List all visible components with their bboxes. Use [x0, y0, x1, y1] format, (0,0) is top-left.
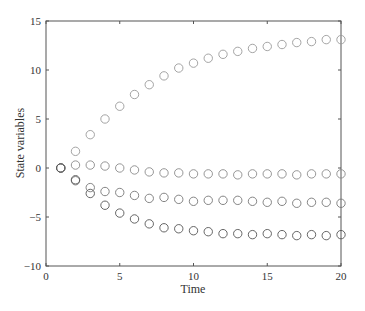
x-axis-label: Time [181, 282, 206, 296]
data-point [204, 196, 212, 204]
data-point [175, 169, 183, 177]
y-tick-label: −5 [29, 211, 41, 223]
data-point [71, 161, 79, 169]
data-point [263, 229, 271, 237]
series-state-4 [57, 164, 346, 240]
data-point [322, 231, 330, 239]
data-point [160, 72, 168, 80]
data-point [263, 42, 271, 50]
data-point [130, 215, 138, 223]
data-point [116, 164, 124, 172]
x-tick-label: 5 [117, 270, 123, 282]
data-point [248, 44, 256, 52]
x-tick-label: 20 [336, 270, 348, 282]
data-point [189, 227, 197, 235]
data-point [86, 161, 94, 169]
data-point [234, 229, 242, 237]
y-tick-label: 5 [36, 113, 42, 125]
data-point [293, 38, 301, 46]
data-point [189, 170, 197, 178]
data-point [263, 198, 271, 206]
data-point [160, 193, 168, 201]
data-point [307, 230, 315, 238]
data-point [293, 199, 301, 207]
data-point [204, 54, 212, 62]
y-tick-label: 0 [36, 162, 42, 174]
data-point [86, 130, 94, 138]
data-point [307, 170, 315, 178]
data-point [248, 230, 256, 238]
y-axis-label: State variables [13, 108, 27, 179]
data-point [101, 115, 109, 123]
data-point [116, 209, 124, 217]
data-markers [57, 35, 346, 239]
data-point [219, 170, 227, 178]
data-point [234, 196, 242, 204]
data-point [160, 169, 168, 177]
data-point [175, 225, 183, 233]
x-axis-ticks: 05101520 [43, 21, 347, 282]
data-point [293, 231, 301, 239]
data-point [130, 191, 138, 199]
data-point [116, 102, 124, 110]
data-point [204, 228, 212, 236]
plot-area-frame [46, 21, 341, 266]
data-point [175, 195, 183, 203]
data-point [278, 197, 286, 205]
data-point [130, 90, 138, 98]
data-point [307, 198, 315, 206]
data-point [234, 171, 242, 179]
data-point [204, 170, 212, 178]
data-point [278, 230, 286, 238]
data-point [248, 170, 256, 178]
data-point [160, 224, 168, 232]
data-point [101, 187, 109, 195]
data-point [248, 197, 256, 205]
data-point [293, 171, 301, 179]
data-point [219, 229, 227, 237]
data-point [234, 47, 242, 55]
series-state-3 [57, 164, 346, 208]
series-state-2 [57, 161, 346, 179]
data-point [175, 64, 183, 72]
data-point [189, 59, 197, 67]
scatter-chart: 05101520 −10−5051015 Time State variable… [0, 0, 365, 311]
data-point [278, 40, 286, 48]
data-point [322, 198, 330, 206]
y-tick-label: −10 [24, 260, 42, 272]
data-point [307, 37, 315, 45]
data-point [219, 196, 227, 204]
series-state-1 [57, 35, 346, 172]
data-point [189, 197, 197, 205]
x-tick-label: 0 [43, 270, 49, 282]
data-point [101, 201, 109, 209]
data-point [145, 81, 153, 89]
data-point [322, 35, 330, 43]
data-point [145, 194, 153, 202]
y-tick-label: 10 [30, 64, 42, 76]
data-point [130, 166, 138, 174]
x-tick-label: 15 [262, 270, 274, 282]
data-point [71, 147, 79, 155]
data-point [219, 50, 227, 58]
data-point [145, 168, 153, 176]
x-tick-label: 10 [188, 270, 200, 282]
data-point [278, 170, 286, 178]
data-point [86, 189, 94, 197]
data-point [101, 162, 109, 170]
data-point [322, 170, 330, 178]
data-point [263, 170, 271, 178]
data-point [145, 220, 153, 228]
y-tick-label: 15 [30, 15, 42, 27]
data-point [57, 164, 65, 172]
data-point [116, 188, 124, 196]
